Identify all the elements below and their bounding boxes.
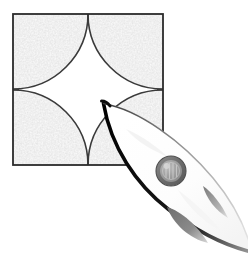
illustration-svg <box>0 0 248 270</box>
illustration-canvas <box>0 0 248 270</box>
porthole-window <box>156 156 186 186</box>
porthole-specular-highlight <box>164 163 170 169</box>
porthole-glass <box>160 160 182 182</box>
